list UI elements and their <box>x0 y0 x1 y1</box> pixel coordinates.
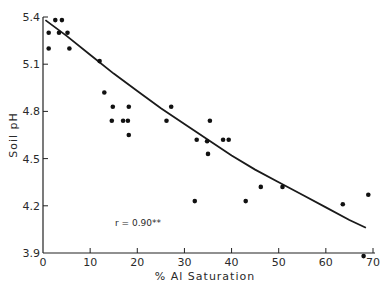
x-tick-label: 40 <box>225 256 239 269</box>
data-point <box>259 185 264 190</box>
y-tick-label: 5.4 <box>23 11 41 24</box>
y-tick-label: 4.5 <box>23 153 41 166</box>
data-point <box>206 152 211 157</box>
data-point <box>67 46 72 51</box>
correlation-annotation: r = 0.90** <box>115 218 162 228</box>
y-tick-label: 4.8 <box>23 105 41 118</box>
fitted-curve <box>45 20 366 228</box>
data-point <box>102 90 107 95</box>
scatter-chart: 0102030405060703.94.24.54.85.15.4 % Al S… <box>0 0 389 294</box>
x-tick-label: 0 <box>40 256 47 269</box>
axis-ticks: 0102030405060703.94.24.54.85.15.4 <box>23 11 381 269</box>
y-axis-title: Soil pH <box>7 112 20 158</box>
data-point <box>208 119 213 124</box>
data-point <box>169 104 174 109</box>
data-point <box>341 202 346 207</box>
data-point <box>46 30 51 35</box>
data-point <box>127 133 132 138</box>
data-point <box>366 193 371 198</box>
data-points <box>46 18 370 259</box>
data-point <box>205 139 210 144</box>
x-tick-label: 10 <box>83 256 97 269</box>
data-point <box>97 59 102 64</box>
data-point <box>121 119 126 124</box>
data-point <box>164 119 169 124</box>
data-point <box>60 18 65 23</box>
data-point <box>110 119 115 124</box>
y-tick-label: 3.9 <box>23 247 41 260</box>
axes <box>43 17 375 253</box>
y-tick-label: 4.2 <box>23 200 41 213</box>
data-point <box>126 119 131 124</box>
data-point <box>280 185 285 190</box>
data-point <box>46 46 51 51</box>
y-tick-label: 5.1 <box>23 58 41 71</box>
data-point <box>57 30 62 35</box>
data-point <box>361 254 366 259</box>
data-point <box>226 137 231 142</box>
fitted-curve-line <box>45 20 366 228</box>
x-tick-label: 60 <box>319 256 333 269</box>
data-point <box>127 104 132 109</box>
x-tick-label: 70 <box>366 256 380 269</box>
x-tick-label: 50 <box>272 256 286 269</box>
data-point <box>193 199 198 204</box>
data-point <box>65 30 70 35</box>
x-tick-label: 30 <box>177 256 191 269</box>
data-point <box>111 104 116 109</box>
x-tick-label: 20 <box>130 256 144 269</box>
data-point <box>194 137 199 142</box>
data-point <box>221 137 226 142</box>
data-point <box>243 199 248 204</box>
x-axis-title: % Al Saturation <box>155 270 255 283</box>
data-point <box>53 18 58 23</box>
